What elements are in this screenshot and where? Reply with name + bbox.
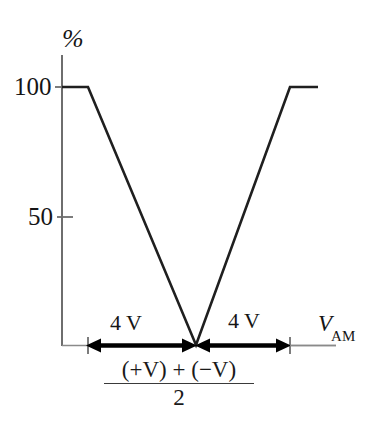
y-tick-label-100: 100 xyxy=(14,74,52,99)
modulation-curve xyxy=(62,87,318,345)
x-axis-label-main: V xyxy=(318,311,332,336)
y-tick-label-50: 50 xyxy=(28,204,53,229)
formula-denominator: 2 xyxy=(104,384,254,410)
x-axis-label-subscript: AM xyxy=(331,328,355,344)
formula-numerator: (+V) + (−V) xyxy=(104,358,254,384)
span-arrow-left xyxy=(86,339,197,353)
span-label-right: 4 V xyxy=(228,310,260,332)
y-axis-label: % xyxy=(62,26,84,52)
center-formula: (+V) + (−V) 2 xyxy=(104,358,254,410)
chart-figure: 100 50 % 4 V 4 V VAM (+V) + (−V) 2 xyxy=(0,0,366,433)
x-axis-label: VAM xyxy=(318,312,356,340)
span-arrow-right xyxy=(195,339,291,353)
span-label-left: 4 V xyxy=(110,312,142,334)
